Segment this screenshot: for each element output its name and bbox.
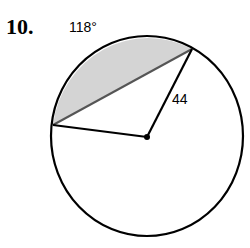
center-point [144, 134, 150, 140]
radius-left [53, 125, 147, 137]
circle-diagram [0, 0, 250, 248]
shaded-segment [53, 38, 192, 125]
